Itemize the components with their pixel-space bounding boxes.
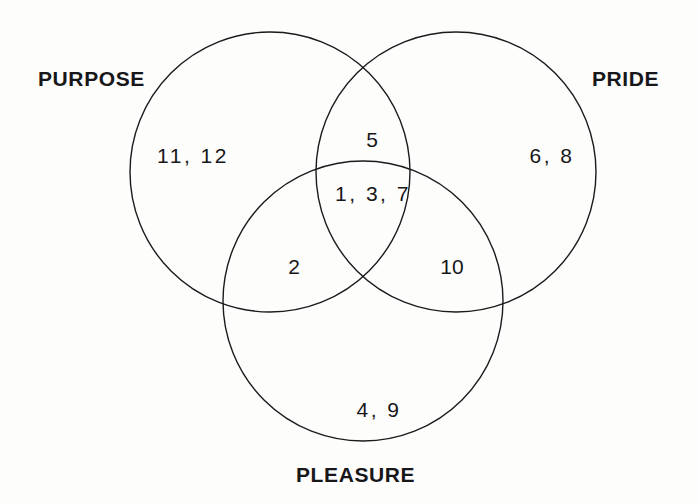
set-label-pride: PRIDE — [592, 68, 659, 89]
set-label-purpose: PURPOSE — [38, 68, 145, 89]
region-purpose-pride: 5 — [366, 129, 378, 150]
circle-purpose — [130, 32, 410, 312]
region-purpose-pleasure: 2 — [288, 256, 300, 277]
region-pride-pleasure: 10 — [440, 256, 463, 277]
region-all-three: 1, 3, 7 — [335, 183, 411, 204]
set-label-pleasure: PLEASURE — [296, 464, 415, 485]
region-purpose-only: 11, 12 — [157, 145, 229, 166]
region-pleasure-only: 4, 9 — [356, 399, 401, 420]
venn-diagram-canvas: PURPOSE PRIDE PLEASURE 11, 12 6, 8 4, 9 … — [0, 0, 699, 504]
region-pride-only: 6, 8 — [529, 145, 574, 166]
